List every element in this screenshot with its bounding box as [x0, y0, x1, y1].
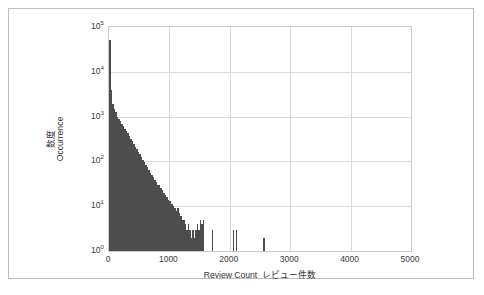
- x-axis-tick-labels: 010002000300040005000: [108, 255, 412, 269]
- y-tick-label: 104: [91, 67, 104, 76]
- x-tick-label: 3000: [280, 255, 299, 264]
- y-tick-label: 105: [91, 22, 104, 31]
- histogram-bar: [212, 230, 214, 251]
- x-axis-label: Review Countレビュー件数: [108, 268, 412, 280]
- histogram-bar: [203, 220, 205, 251]
- histogram-bar: [236, 230, 238, 251]
- y-tick-label: 102: [91, 156, 104, 165]
- x-axis-label-jp: レビュー件数: [262, 270, 316, 280]
- x-tick-label: 1000: [159, 255, 178, 264]
- y-tick-label: 101: [91, 201, 104, 210]
- y-axis-tick-labels: 100101102103104105: [74, 26, 104, 252]
- y-axis-label-en: Occurrence: [55, 117, 65, 161]
- x-tick-label: 2000: [219, 255, 238, 264]
- y-axis-label-jp: 数度: [44, 130, 56, 148]
- plot-area: [108, 26, 412, 252]
- histogram-bars: [109, 27, 411, 251]
- histogram-bar: [263, 238, 265, 251]
- x-axis-label-en: Review Count: [204, 270, 258, 280]
- histogram-bar: [233, 230, 235, 251]
- y-tick-label: 100: [91, 246, 104, 255]
- x-tick-label: 5000: [401, 255, 420, 264]
- x-tick-label: 0: [106, 255, 111, 264]
- figure: 100101102103104105 010002000300040005000…: [0, 0, 484, 295]
- y-tick-label: 103: [91, 111, 104, 120]
- x-tick-label: 4000: [340, 255, 359, 264]
